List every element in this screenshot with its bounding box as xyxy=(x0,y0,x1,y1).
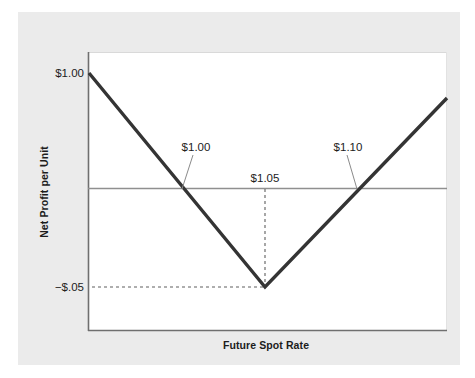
plot-area-background xyxy=(88,52,447,331)
annotation-breakeven-low: $1.00 xyxy=(182,141,211,153)
annotation-breakeven-high: $1.10 xyxy=(334,141,363,153)
annotation-vertex: $1.05 xyxy=(251,172,280,184)
y-tick-label-bottom: −$.05 xyxy=(55,281,84,293)
x-axis-title: Future Spot Rate xyxy=(223,339,309,351)
y-tick-label-top: $1.00 xyxy=(55,67,84,79)
y-axis-title: Net Profit per Unit xyxy=(38,146,50,238)
net-profit-payoff-chart: $1.00 −$.05 $1.00 $1.05 $1.10 Net Profit… xyxy=(0,0,475,378)
